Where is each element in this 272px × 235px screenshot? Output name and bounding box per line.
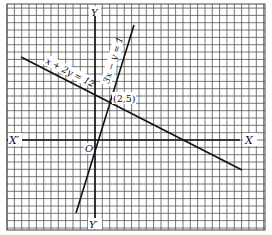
y-negative-axis-label: Y′: [89, 219, 99, 230]
line-3x-minus-y-eq-1: [76, 25, 134, 213]
grid-lines: [7, 4, 265, 230]
grid-border: [7, 4, 265, 230]
origin-label: O: [85, 143, 93, 154]
x-axis-label: X: [244, 134, 254, 147]
coordinate-plane: X X′ Y Y′ O x + 2y = 12 3x − y = 1 (2,5): [0, 0, 272, 235]
equation-label-3x-minus-y: 3x − y = 1: [101, 36, 125, 85]
intersection-label: (2,5): [113, 93, 136, 104]
x-negative-axis-label: X′: [8, 134, 20, 147]
graph-figure: X X′ Y Y′ O x + 2y = 12 3x − y = 1 (2,5): [0, 0, 272, 235]
